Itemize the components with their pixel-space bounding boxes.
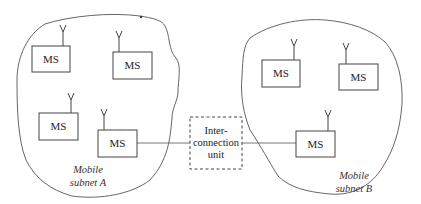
ms-station-4: [98, 109, 137, 157]
ms-label-6: MS: [339, 72, 378, 83]
ms-label-4: MS: [98, 138, 137, 149]
subnet-b-label-line1: Mobile: [330, 169, 378, 182]
ms-label-2: MS: [113, 60, 152, 71]
subnet-a-mark: [140, 16, 142, 18]
ms-station-2: [113, 31, 152, 79]
antenna-icon: [343, 43, 349, 50]
ms-label-7: MS: [296, 139, 335, 150]
unit-label-line1: Inter-: [190, 125, 242, 137]
subnet-b-label: Mobile subnet B: [330, 169, 378, 195]
antenna-icon: [60, 25, 66, 32]
antenna-icon: [325, 110, 331, 117]
ms-station-5: [262, 39, 300, 87]
ms-label-1: MS: [32, 54, 70, 65]
subnet-a-label-line2: subnet A: [64, 176, 112, 189]
unit-label-line2: connection: [190, 137, 242, 149]
antenna-icon: [116, 31, 122, 38]
subnet-a-label-line1: Mobile: [64, 163, 112, 176]
interconnection-unit-label: Inter- connection unit: [190, 125, 242, 161]
ms-label-3: MS: [39, 121, 78, 132]
subnet-b-label-line2: subnet B: [330, 182, 378, 195]
ms-label-5: MS: [262, 68, 300, 79]
unit-label-line3: unit: [190, 149, 242, 161]
subnet-a-label: Mobile subnet A: [64, 163, 112, 189]
ms-station-3: [39, 93, 78, 140]
antenna-icon: [291, 39, 297, 46]
antenna-icon: [101, 109, 107, 116]
subnet-b-boundary: [241, 20, 402, 195]
antenna-icon: [68, 93, 74, 100]
